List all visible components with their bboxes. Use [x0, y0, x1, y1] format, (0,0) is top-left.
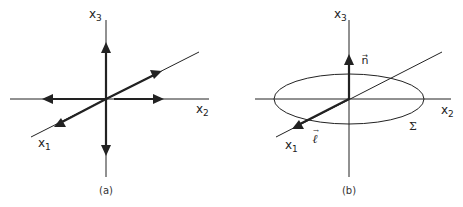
label-sigma: Σ — [409, 120, 417, 133]
label-x2-a: x2 — [196, 102, 209, 118]
figure-canvas: x3 x2 x1 (a) x3 x2 x1 → n — [0, 0, 463, 207]
label-x1-b: x1 — [285, 138, 298, 154]
arrow-up-icon — [101, 42, 111, 99]
normal-vector-arrow-icon — [344, 54, 354, 99]
caption-b: (b) — [342, 185, 356, 196]
label-l-vector: → ℓ — [313, 127, 320, 146]
label-n-vector: → n — [362, 52, 369, 67]
arrow-right-icon — [114, 94, 164, 104]
arrow-down-icon — [101, 99, 111, 156]
svg-text:ℓ: ℓ — [313, 132, 318, 146]
arrow-left-icon — [42, 94, 106, 104]
l-vector-arrow-icon — [292, 99, 349, 129]
label-x2-b: x2 — [441, 103, 454, 119]
panel-b: x3 x2 x1 → n → ℓ Σ (b) — [255, 7, 454, 196]
label-x3-b: x3 — [334, 7, 347, 23]
label-x3-a: x3 — [89, 7, 102, 23]
caption-a: (a) — [99, 185, 113, 196]
arrow-diag-front-icon — [54, 99, 106, 127]
panel-a: x3 x2 x1 (a) — [10, 7, 209, 196]
svg-text:n: n — [362, 54, 369, 67]
label-x1-a: x1 — [38, 136, 51, 152]
